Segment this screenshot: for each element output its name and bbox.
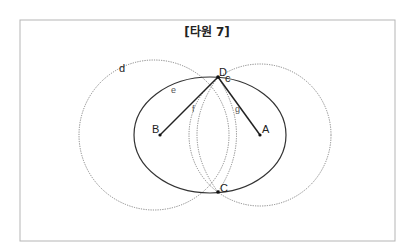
label-g: g [235, 104, 240, 114]
figure-title: [타원 7] [184, 24, 230, 39]
figure-frame [20, 20, 395, 241]
label-c: c [225, 72, 231, 84]
label-C: C [220, 182, 228, 194]
ellipse-construction-diagram: [타원 7] B A D C c d e f g [0, 0, 417, 252]
label-d: d [119, 62, 125, 74]
label-B: B [152, 123, 159, 135]
label-A: A [262, 123, 270, 135]
label-e: e [171, 85, 176, 95]
